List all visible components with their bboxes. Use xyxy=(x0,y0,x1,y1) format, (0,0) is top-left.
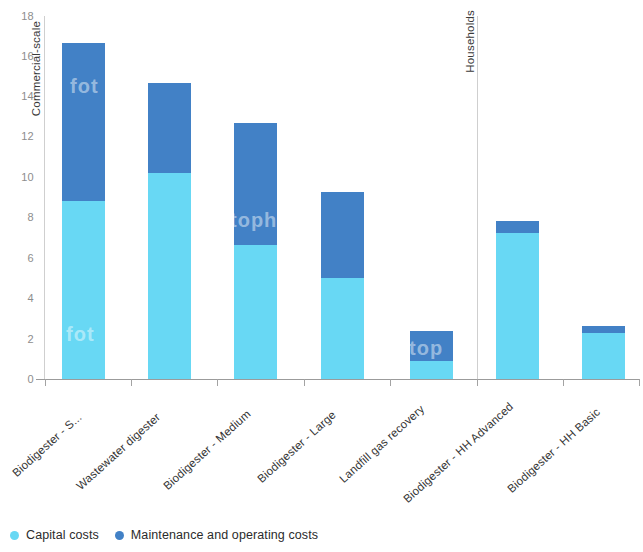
y-tick-label: 2 xyxy=(4,333,34,345)
bar-segment-capital[interactable] xyxy=(582,333,625,380)
x-axis-tick xyxy=(45,379,46,386)
bar-segment-capital[interactable] xyxy=(496,233,539,380)
x-axis-tick xyxy=(639,379,640,386)
y-tick-label: 10 xyxy=(4,171,34,183)
bar-landfill-gas-recovery[interactable]: top xyxy=(410,331,453,380)
bar-segment-maintenance-operating[interactable] xyxy=(321,192,364,278)
bar-segment-maintenance-operating[interactable]: fot xyxy=(62,43,105,201)
y-tick-label: 8 xyxy=(4,211,34,223)
legend-label: Maintenance and operating costs xyxy=(131,528,318,542)
bar-segment-capital[interactable] xyxy=(148,173,191,380)
x-axis-tick xyxy=(563,379,564,386)
x-axis-baseline xyxy=(36,379,640,380)
circle-marker-icon xyxy=(115,531,124,540)
x-axis-label-biodigester-medium: Biodigester - Medium xyxy=(161,408,253,492)
bar-biodigester-s[interactable]: fot fot xyxy=(62,43,105,380)
y-tick-label: 6 xyxy=(4,252,34,264)
legend-label: Capital costs xyxy=(26,528,99,542)
x-axis-tick xyxy=(304,379,305,386)
x-axis-label-biodigester-hh-basic: Biodigester - HH Basic xyxy=(505,406,602,495)
bar-biodigester-large[interactable] xyxy=(321,192,364,380)
bar-segment-capital[interactable] xyxy=(321,278,364,380)
bar-wastewater-digester[interactable] xyxy=(148,83,191,380)
circle-marker-icon xyxy=(10,531,19,540)
bar-biodigester-hh-advanced[interactable] xyxy=(496,221,539,380)
bar-segment-capital[interactable] xyxy=(234,245,277,380)
y-tick-label: 4 xyxy=(4,292,34,304)
bar-biodigester-medium[interactable]: toph xyxy=(234,123,277,380)
legend-item-capital-costs[interactable]: Capital costs xyxy=(10,528,99,542)
bar-segment-maintenance-operating[interactable] xyxy=(582,326,625,333)
bar-segment-capital[interactable]: fot xyxy=(62,201,105,380)
bar-segment-maintenance-operating[interactable] xyxy=(496,221,539,233)
x-axis-tick xyxy=(217,379,218,386)
chart-legend: Capital costs Maintenance and operating … xyxy=(10,528,318,542)
y-tick-label: 12 xyxy=(4,130,34,142)
x-axis-label-biodigester-s: Biodigester - S... xyxy=(10,411,84,479)
bar-segment-maintenance-operating[interactable]: toph xyxy=(234,123,277,245)
x-axis-label-landfill-gas-recovery: Landfill gas recovery xyxy=(337,403,427,485)
x-axis-tick xyxy=(390,379,391,386)
stacked-bar-chart: 18 16 14 12 10 8 6 4 2 0 Commercial-scal… xyxy=(0,0,643,552)
bar-segment-capital[interactable] xyxy=(410,361,453,380)
x-axis-tick xyxy=(131,379,132,386)
legend-item-maintenance-operating-costs[interactable]: Maintenance and operating costs xyxy=(115,528,318,542)
x-axis-tick xyxy=(477,379,478,386)
bar-segment-maintenance-operating[interactable] xyxy=(148,83,191,173)
x-axis-label-wastewater-digester: Wastewater digester xyxy=(74,411,162,492)
y-tick-label: 0 xyxy=(4,373,34,385)
plot-area: fot fot toph top xyxy=(36,14,639,380)
x-axis-label-biodigester-large: Biodigester - Large xyxy=(255,408,338,484)
bar-segment-maintenance-operating[interactable]: top xyxy=(410,331,453,361)
bar-biodigester-hh-basic[interactable] xyxy=(582,326,625,380)
